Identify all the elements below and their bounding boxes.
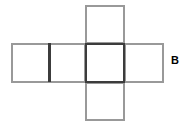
right-square [125,44,163,82]
net-squares-dark [86,44,124,82]
top-square [86,6,124,43]
bottom-square [86,83,124,120]
center-square [86,44,124,82]
midleft-square [50,44,85,82]
net-squares-light [12,6,163,120]
cube-net-figure: B [0,0,188,130]
cube-net-drawing [0,0,188,130]
left-square [12,44,49,82]
